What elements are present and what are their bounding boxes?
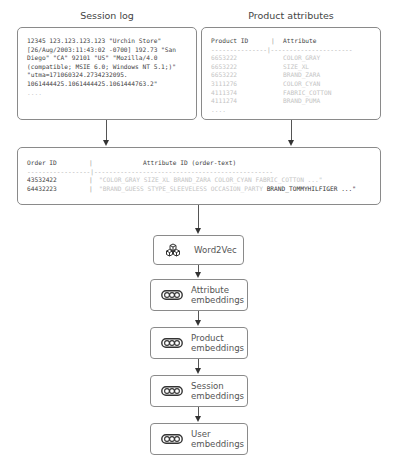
table-row: 64432223 | "BRAND_GUESS STYPE_SLEEVELESS…	[27, 185, 380, 194]
product-embeddings-label: Productembeddings	[191, 333, 244, 353]
cubes-icon	[164, 243, 182, 257]
session-embeddings-label: Sessionembeddings	[191, 381, 244, 401]
embedding-vector-icon	[159, 338, 185, 348]
col-attribute: Attribute	[283, 37, 317, 46]
col-sep: |	[89, 159, 143, 168]
product-embeddings-box: Productembeddings	[150, 327, 248, 359]
arrow-head-icon	[195, 368, 201, 374]
attribute-embeddings-box: Attributeembeddings	[150, 279, 248, 311]
arrow-line	[291, 120, 292, 141]
table-header: Order ID | Attribute ID (order-text)	[27, 159, 380, 168]
order-text: "BRAND_GUESS STYPE_SLEEVELESS OCCASION_P…	[99, 185, 267, 194]
arrow-head-icon	[103, 140, 109, 146]
arrow-head-icon	[195, 228, 201, 234]
embedding-vector-icon	[159, 434, 185, 444]
log-line: ....	[27, 89, 196, 98]
product-attributes-title: Product attributes	[201, 10, 381, 21]
order-text-highlight: BRAND_TOMMYHILFIGER ..."	[267, 185, 356, 194]
attribute: SIZE_XL	[283, 63, 309, 72]
log-line: "utma=171060324.2734232095.	[27, 71, 196, 80]
col-sep: |	[271, 37, 283, 46]
product-attributes-box: Product ID | Attribute ---------------|-…	[201, 27, 381, 120]
table-row: 6653222 COLOR_GRAY	[211, 54, 380, 63]
attribute-embeddings-label: Attributeembeddings	[191, 285, 244, 305]
order-text: "COLOR_GRAY SIZE_XL BRAND_ZARA COLOR_CYA…	[99, 176, 323, 185]
attribute: COLOR_GRAY	[283, 54, 320, 63]
session-log-title: Session log	[17, 10, 197, 21]
table-row: 4111274 BRAND_PUMA	[211, 97, 380, 106]
col-sep: |	[89, 185, 99, 194]
product-id: 6653222	[211, 54, 283, 63]
session-embeddings-box: Sessionembeddings	[150, 375, 248, 407]
col-order-id: Order ID	[27, 159, 89, 168]
log-line: 1061444425.1061444425.1061444763.2"	[27, 80, 196, 89]
table-row: 43532422 | "COLOR_GRAY SIZE_XL BRAND_ZAR…	[27, 176, 380, 185]
attribute: BRAND_ZARA	[283, 71, 320, 80]
attribute: FABRIC_COTTON	[283, 89, 331, 98]
table-row: 6653222 BRAND_ZARA	[211, 71, 380, 80]
table-row: 4111374 FABRIC_COTTON	[211, 89, 380, 98]
embedding-vector-icon	[159, 386, 185, 396]
user-embeddings-label: Userembeddings	[191, 429, 244, 449]
word2vec-label: Word2Vec	[194, 245, 237, 255]
product-id: 6653222	[211, 63, 283, 72]
user-embeddings-box: Userembeddings	[150, 423, 248, 455]
table-row: 3111276 COLOR_CYAN	[211, 80, 380, 89]
col-sep: |	[89, 176, 99, 185]
product-id: 4111274	[211, 97, 283, 106]
arrow-line	[198, 205, 199, 229]
col-product-id: Product ID	[211, 37, 271, 46]
table-header: Product ID | Attribute	[211, 37, 380, 46]
table-divider: ---------------|----------------------	[211, 46, 380, 55]
ellipsis: ....	[211, 106, 380, 115]
log-line: (compatible; MSIE 6.0; Windows NT 5.1;)"	[27, 63, 196, 72]
order-id: 43532422	[27, 176, 89, 185]
orders-box: Order ID | Attribute ID (order-text) ---…	[17, 147, 381, 205]
attribute: COLOR_CYAN	[283, 80, 320, 89]
product-id: 3111276	[211, 80, 283, 89]
table-row: 6653222 SIZE_XL	[211, 63, 380, 72]
product-id: 6653222	[211, 71, 283, 80]
col-attribute-id: Attribute ID (order-text)	[143, 159, 236, 168]
arrow-head-icon	[288, 140, 294, 146]
log-line: 12345 123.123.123.123 "Urchin Store"	[27, 37, 196, 46]
session-log-box: 12345 123.123.123.123 "Urchin Store" [26…	[17, 27, 197, 120]
word2vec-box: Word2Vec	[153, 235, 244, 265]
embedding-vector-icon	[159, 290, 185, 300]
product-id: 4111374	[211, 89, 283, 98]
attribute: BRAND_PUMA	[283, 97, 320, 106]
arrow-head-icon	[195, 272, 201, 278]
log-line: Diego" "CA" 92101 "US" "Mozilla/4.0	[27, 54, 196, 63]
arrow-head-icon	[195, 416, 201, 422]
log-line: [26/Aug/2003:11:43:02 -0700] 192.73 "San	[27, 46, 196, 55]
arrow-line	[106, 120, 107, 141]
table-divider: -----------------|----------------------…	[27, 168, 380, 177]
order-id: 64432223	[27, 185, 89, 194]
arrow-head-icon	[195, 320, 201, 326]
